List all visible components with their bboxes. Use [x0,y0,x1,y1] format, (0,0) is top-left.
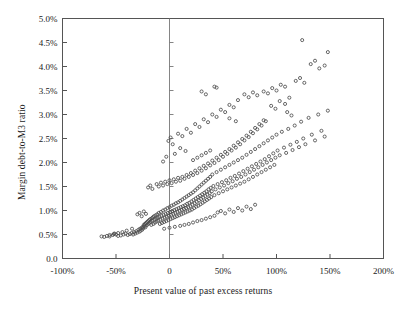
scatter-point [301,39,304,42]
scatter-point [232,106,235,109]
scatter-point [326,51,329,54]
scatter-point [313,139,316,142]
scatter-point [307,116,310,119]
scatter-point [202,118,205,121]
scatter-point [200,90,203,93]
scatter-point [247,96,250,99]
scatter-point [236,159,239,162]
scatter-point [313,59,316,62]
x-tick-label: 0 [167,266,172,276]
scatter-point [257,166,260,169]
y-tick-label: 0.5% [39,230,58,240]
scatter-point [226,152,229,155]
scatter-point [241,209,244,212]
scatter-point [267,155,270,158]
scatter-point [274,107,277,110]
scatter-point [217,159,220,162]
scatter-point [260,171,263,174]
scatter-point [191,173,194,176]
scatter-point [228,208,231,211]
scatter-point [323,135,326,138]
scatter-point [213,161,216,164]
scatter-point [162,184,165,187]
scatter-point [250,165,253,168]
scatter-point [224,166,227,169]
scatter-point [247,178,250,181]
scatter-point [159,181,162,184]
scatter-point [196,156,199,159]
scatter-point [170,182,173,185]
scatter-point [241,156,244,159]
scatter-point [317,113,320,116]
scatter-point [200,154,203,157]
scatter-point [196,220,199,223]
scatter-point [174,180,177,183]
y-tick-label: 4.5% [39,38,58,48]
scatter-point [256,173,259,176]
scatter-point [177,132,180,135]
scatter-point [318,67,321,70]
scatter-point [302,137,305,140]
y-tick-label: 3.0% [39,110,58,120]
scatter-point [266,139,269,142]
x-tick-label: 100% [266,266,288,276]
y-tick-label: 3.5% [39,86,58,96]
scatter-point [249,208,252,211]
scatter-point [232,210,235,213]
scatter-point [163,227,166,230]
scatter-point [233,174,236,177]
scatter-point [209,216,212,219]
scatter-point [187,175,190,178]
scatter-point [200,169,203,172]
scatter-point [220,181,223,184]
scatter-point [166,183,169,186]
scatter-point [224,212,227,215]
scatter-point [291,148,294,151]
scatter-point [219,168,222,171]
scatter-point [183,223,186,226]
scatter-point [256,94,259,97]
y-axis-title: Margin debt-to-M3 ratio [17,104,27,200]
scatter-point [216,183,219,186]
scatter-point [264,168,267,171]
scatter-point [144,212,147,215]
scatter-point [228,103,231,106]
scatter-point [179,147,182,150]
scatter-point [323,64,326,67]
scatter-point [196,172,199,175]
scatter-point [149,184,152,187]
scatter-point [209,164,212,167]
scatter-point [198,125,201,128]
scatter-point [310,133,313,136]
scatter-point [225,179,228,182]
scatter-chart-figure: -100%-50%050%100%150%200% 0.00.5%1.0%1.5… [0,0,406,311]
scatter-point [288,96,291,99]
scatter-point [191,159,194,162]
scatter-point [219,209,222,212]
scatter-point [189,131,192,134]
scatter-point [234,184,237,187]
scatter-point [212,184,215,187]
scatter-point [245,205,248,208]
scatter-points [100,39,329,239]
scatter-point [236,99,239,102]
x-tick-label: -50% [106,266,126,276]
scatter-point [157,185,160,188]
scatter-point [200,219,203,222]
scatter-point [242,170,245,173]
scatter-point [278,154,281,157]
scatter-point [295,140,298,143]
scatter-point [271,136,274,139]
x-tick-label: 200% [373,266,395,276]
scatter-point [254,203,257,206]
scatter-point [240,175,243,178]
scatter-point [227,182,230,185]
scatter-point [213,194,216,197]
scatter-point [273,163,276,166]
scatter-point [326,109,329,112]
scatter-point [204,151,207,154]
scatter-point [274,156,277,159]
scatter-point [214,188,217,191]
scatter-point [226,188,229,191]
scatter-point [259,160,262,163]
